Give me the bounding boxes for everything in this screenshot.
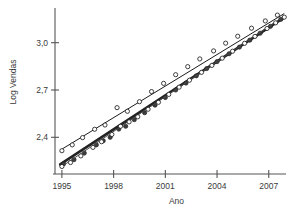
series-layer [60, 13, 287, 169]
data-point [118, 124, 122, 128]
data-point [199, 70, 203, 74]
data-point [253, 34, 257, 38]
data-point [230, 49, 234, 53]
data-point [274, 21, 278, 25]
data-point [91, 145, 95, 149]
series-serie-inferior-observada [60, 15, 287, 169]
data-point [79, 154, 83, 158]
data-point [265, 26, 269, 30]
data-point [115, 106, 119, 110]
data-point [211, 49, 215, 53]
data-point [167, 92, 171, 96]
x-axis-title: Ano [169, 196, 184, 206]
axis-labels-layer: 2,42,73,019951998200120042007AnoLog Vend… [8, 38, 278, 206]
trend-line-serie-inferior-observada [60, 16, 284, 167]
y-axis-title: Log Vendas [8, 60, 18, 105]
data-point [146, 107, 150, 111]
data-point [156, 100, 160, 104]
y-tick-label: 2,7 [36, 85, 48, 95]
data-point [275, 13, 279, 17]
data-point [220, 56, 224, 60]
y-tick-label: 2,4 [36, 132, 48, 142]
x-tick-label: 2007 [259, 181, 278, 191]
data-point [263, 19, 267, 23]
data-point [210, 63, 214, 67]
data-point [125, 109, 129, 113]
y-tick-label: 3,0 [36, 38, 48, 48]
data-point [186, 65, 190, 69]
data-point [80, 136, 84, 140]
data-point [127, 120, 131, 124]
data-point [224, 41, 228, 45]
series-serie-superior [60, 13, 284, 153]
data-point [110, 132, 114, 136]
data-point [187, 78, 191, 82]
data-point [60, 149, 64, 153]
data-point [149, 89, 153, 93]
data-point [174, 73, 178, 77]
data-point [162, 81, 166, 85]
data-point [282, 15, 286, 19]
x-tick-label: 1998 [104, 181, 123, 191]
data-point [136, 115, 140, 119]
data-point [249, 26, 253, 30]
data-point [103, 123, 107, 127]
chart-figure: 2,42,73,019951998200120042007AnoLog Vend… [0, 0, 290, 211]
data-point [93, 127, 97, 131]
data-point [243, 41, 247, 45]
data-point [198, 57, 202, 61]
data-point [137, 100, 141, 104]
data-point [68, 160, 72, 164]
data-point [177, 85, 181, 89]
data-point [70, 143, 74, 147]
data-point [60, 164, 64, 168]
scatter-plot: 2,42,73,019951998200120042007AnoLog Vend… [0, 0, 290, 211]
x-tick-label: 1995 [52, 181, 71, 191]
x-tick-label: 2004 [208, 181, 227, 191]
data-point [99, 140, 103, 144]
data-point [236, 34, 240, 38]
x-tick-label: 2001 [156, 181, 175, 191]
